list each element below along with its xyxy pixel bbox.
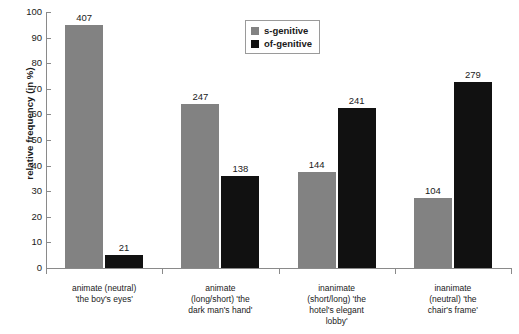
category-label-line: 'the boy's eyes' [46,294,162,305]
legend-swatch-s-genitive [251,27,259,35]
bar-value-label: 407 [56,12,112,23]
category-label-line: animate (neutral) [46,283,162,294]
legend-label-of-genitive: of-genitive [264,38,312,49]
category-label-line: hotel's elegant [279,305,395,316]
category-label-line: inanimate [279,283,395,294]
category-label-line: (neutral) 'the [395,294,511,305]
bar-s-genitive [414,198,452,268]
y-axis-tick-mark [46,217,51,218]
x-axis-tick-mark [46,268,47,274]
x-axis-category-label: inanimate(short/long) 'thehotel's elegan… [279,283,395,327]
bar-of-genitive [338,108,376,268]
y-axis-tick-mark [46,12,51,13]
bar-value-label: 247 [172,91,228,102]
y-axis-tick-label: 40 [6,160,42,172]
category-label-line: (short/long) 'the [279,294,395,305]
bar-chart: relative frequency (in %) 01020304050607… [0,0,519,334]
y-axis-tick-label: 70 [6,83,42,95]
category-label-line: chair's frame' [395,305,511,316]
bar-value-label: 21 [96,242,152,253]
bar-value-label: 144 [289,159,345,170]
category-label-line: (long/short) 'the [162,294,278,305]
y-axis-tick-label: 60 [6,108,42,120]
y-axis-tick-label: 10 [6,236,42,248]
y-axis-tick-mark [46,63,51,64]
legend-label-s-genitive: s-genitive [264,25,308,36]
x-axis-tick-mark [279,268,280,274]
y-axis-tick-mark [46,89,51,90]
category-label-line: animate [162,283,278,294]
y-axis-tick-mark [46,140,51,141]
x-axis-category-label: animate(long/short) 'thedark man's hand' [162,283,278,316]
legend-swatch-of-genitive [251,40,259,48]
bar-s-genitive [298,172,336,268]
x-axis-category-label: inanimate(neutral) 'thechair's frame' [395,283,511,316]
y-axis-tick-label: 100 [6,6,42,18]
category-label-line: dark man's hand' [162,305,278,316]
y-axis-tick-mark [46,114,51,115]
x-axis-tick-mark [395,268,396,274]
bar-value-label: 241 [329,95,385,106]
bar-s-genitive [65,25,103,268]
x-axis-tick-mark [511,268,512,274]
y-axis-tick-label: 30 [6,185,42,197]
legend-item-s-genitive: s-genitive [251,24,312,37]
y-axis-tick-label: 50 [6,134,42,146]
y-axis-tick-mark [46,242,51,243]
bar-of-genitive [454,82,492,268]
y-axis-tick-mark [46,191,51,192]
y-axis-tick-mark [46,166,51,167]
y-axis-tick-mark [46,38,51,39]
bar-value-label: 104 [405,185,461,196]
bar-of-genitive [105,255,143,268]
y-axis-tick-label: 20 [6,211,42,223]
legend-item-of-genitive: of-genitive [251,37,312,50]
bar-of-genitive [221,176,259,268]
category-label-line: inanimate [395,283,511,294]
category-label-line: lobby' [279,316,395,327]
bar-value-label: 138 [212,163,268,174]
y-axis-tick-label: 0 [6,262,42,274]
x-axis-category-label: animate (neutral)'the boy's eyes' [46,283,162,305]
y-axis-tick-label: 80 [6,57,42,69]
bar-value-label: 279 [445,69,501,80]
chart-legend: s-genitive of-genitive [245,20,320,54]
x-axis-tick-mark [162,268,163,274]
y-axis-tick-label: 90 [6,32,42,44]
bar-s-genitive [181,104,219,268]
